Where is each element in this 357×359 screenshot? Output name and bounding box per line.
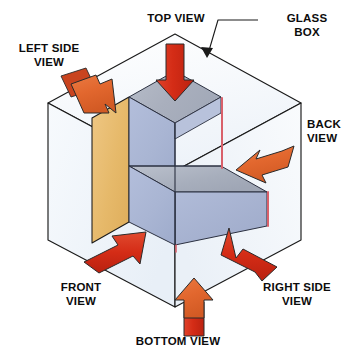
label-right-side-view: RIGHT SIDE VIEW xyxy=(251,281,343,308)
glass-box-leader-line xyxy=(201,20,258,58)
object-face-left xyxy=(92,97,129,243)
label-back-view: BACK VIEW xyxy=(307,118,357,145)
glass-box-diagram: TOP VIEW GLASS BOX LEFT SIDE VIEW BACK V… xyxy=(0,0,357,359)
label-left-side-view: LEFT SIDE VIEW xyxy=(6,42,92,69)
label-bottom-view: BOTTOM VIEW xyxy=(122,335,234,349)
label-front-view: FRONT VIEW xyxy=(46,281,116,308)
label-top-view: TOP VIEW xyxy=(128,12,224,26)
label-glass-box: GLASS BOX xyxy=(262,12,352,39)
